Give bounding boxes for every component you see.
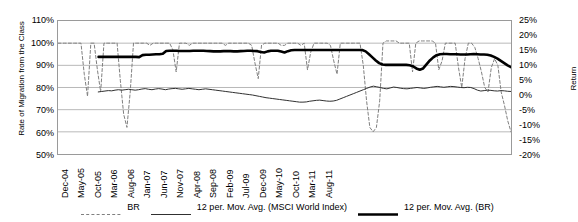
x-tick-label: May-05: [77, 168, 86, 198]
y-axis-title-right: Return: [569, 4, 578, 154]
legend-item[interactable]: BR: [81, 203, 140, 212]
x-tick-label: Oct-05: [94, 171, 103, 198]
legend-swatch: [151, 204, 191, 211]
x-tick-label: Dec-09: [259, 169, 268, 198]
x-tick-label: Nov-07: [176, 169, 185, 198]
y-tick-right: 0%: [519, 91, 563, 100]
x-tick-label: Aug-11: [325, 170, 334, 198]
y-tick-right: -5%: [519, 106, 563, 115]
x-axis: Dec-04May-05Oct-05Mar-06Aug-06Jan-07Jun-…: [57, 156, 512, 202]
x-tick-label: Jun-07: [160, 170, 169, 198]
x-tick-label: Sep-08: [209, 169, 218, 198]
x-tick-label: May-10: [275, 168, 284, 198]
legend-item[interactable]: 12 per. Mov. Avg. (MSCI World Index): [151, 203, 347, 212]
y-tick-right: 10%: [519, 61, 563, 70]
x-tick-label: Mar-11: [308, 170, 317, 198]
y-tick-right: -20%: [519, 151, 563, 160]
legend-label: 12 per. Mov. Avg. (MSCI World Index): [197, 203, 347, 212]
y-tick-right: -15%: [519, 136, 563, 145]
legend-label: 12 per. Mov. Avg. (BR): [404, 203, 494, 212]
x-tick-label: Jul-09: [242, 173, 251, 198]
plot-area: [57, 20, 512, 155]
y-tick-left: 60%: [10, 129, 54, 138]
series-line: [99, 50, 511, 70]
y-tick-left: 110%: [10, 16, 54, 25]
y-tick-left: 80%: [10, 84, 54, 93]
y-tick-right: 25%: [519, 16, 563, 25]
y-tick-right: -10%: [519, 121, 563, 130]
legend-label: BR: [127, 203, 140, 212]
legend-swatch: [358, 204, 398, 211]
series-canvas: [58, 21, 511, 154]
chart-legend: BR12 per. Mov. Avg. (MSCI World Index)12…: [0, 198, 575, 216]
y-tick-right: 15%: [519, 46, 563, 55]
legend-item[interactable]: 12 per. Mov. Avg. (BR): [358, 203, 494, 212]
y-tick-left: 50%: [10, 151, 54, 160]
series-line: [98, 86, 511, 102]
y-tick-right: 20%: [519, 31, 563, 40]
x-tick-label: Mar-06: [110, 169, 119, 198]
x-tick-label: Feb-09: [226, 169, 235, 198]
y-tick-left: 100%: [10, 39, 54, 48]
legend-swatch: [81, 204, 121, 211]
y-tick-right: 5%: [519, 76, 563, 85]
x-tick-label: Dec-04: [61, 169, 70, 198]
x-tick-label: Aug-06: [127, 169, 136, 198]
y-axis-right: 25%20%15%10%5%0%-5%-10%-15%-20%: [519, 0, 565, 222]
y-tick-left: 70%: [10, 106, 54, 115]
x-tick-label: Oct-10: [292, 171, 301, 198]
x-tick-label: Apr-08: [193, 171, 202, 198]
y-axis-left: 110%100%90%80%70%60%50%: [8, 0, 54, 222]
y-tick-left: 90%: [10, 61, 54, 70]
x-tick-label: Jan-07: [143, 170, 152, 198]
